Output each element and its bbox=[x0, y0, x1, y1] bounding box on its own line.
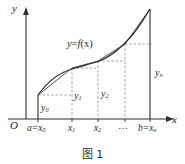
x-tick-x1-sub: 1 bbox=[72, 127, 75, 133]
boundary-ordinates bbox=[38, 9, 150, 119]
x-tick-xn-sub: n bbox=[153, 127, 156, 133]
x-tick-label-xn: b=xn bbox=[138, 124, 156, 134]
x-axis bbox=[8, 116, 174, 122]
trapezoid-chords bbox=[38, 9, 150, 95]
x-tick-label-x0: a=x0 bbox=[27, 124, 45, 134]
ordinate-y1-sub: 1 bbox=[78, 94, 81, 101]
x-tick-label-x1: x1 bbox=[68, 124, 75, 134]
x-tick-x2-sub: 2 bbox=[98, 127, 101, 133]
ordinate-label-y0: y0 bbox=[41, 103, 49, 114]
partition-ordinates bbox=[72, 44, 125, 119]
figure-caption: 图 1 bbox=[0, 145, 185, 161]
x-tick-label-x2: x2 bbox=[94, 124, 101, 134]
ordinate-label-y1: y1 bbox=[74, 91, 82, 102]
x-axis-label: x bbox=[172, 114, 177, 125]
y-axis-label: y bbox=[12, 3, 17, 14]
curve-label-arg: (x) bbox=[81, 38, 93, 49]
ordinate-yn-sub: n bbox=[159, 71, 162, 78]
curve-function-label: y=f(x) bbox=[67, 39, 93, 50]
ordinate-label-yn: yn bbox=[155, 68, 163, 79]
figure-container: y x O y=f(x) y0 y1 y2 yn a=x0 x1 x2 ⋯ b=… bbox=[0, 0, 185, 164]
x-tick-x0-sub: 0 bbox=[42, 127, 45, 133]
x-tick-label-ellipsis: ⋯ bbox=[118, 124, 129, 134]
ordinate-y2-sub: 2 bbox=[105, 92, 108, 99]
y-axis bbox=[23, 7, 29, 119]
x-tick-x0-main: a=x bbox=[27, 123, 42, 133]
ordinate-y0-sub: 0 bbox=[45, 106, 48, 113]
horizontal-connectors bbox=[38, 44, 152, 95]
ordinate-label-y2: y2 bbox=[101, 89, 109, 100]
x-tick-xn-main: b=x bbox=[138, 123, 153, 133]
origin-label: O bbox=[10, 120, 18, 131]
